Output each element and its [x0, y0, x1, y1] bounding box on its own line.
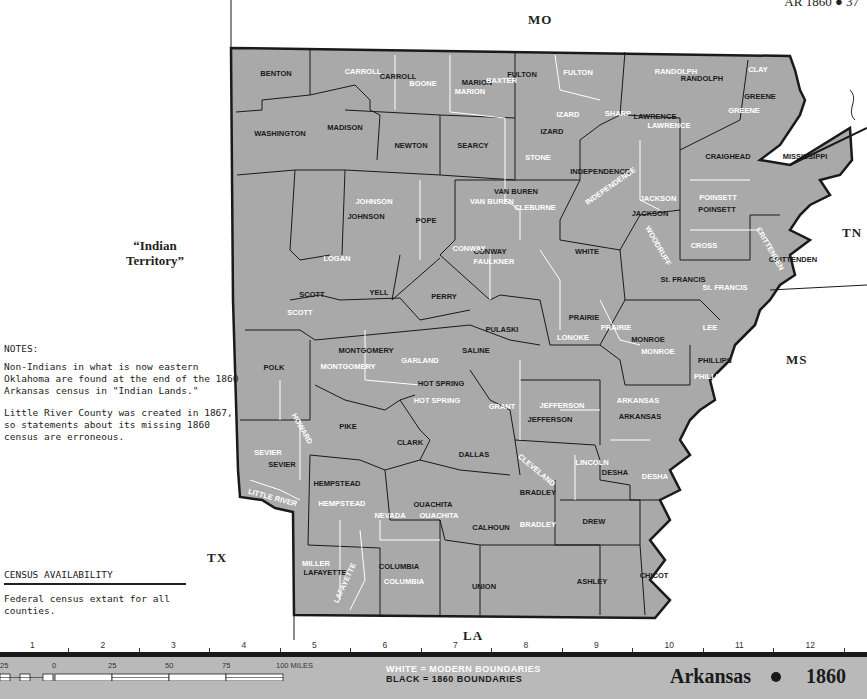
1860-county-label: PHILLIPS [698, 356, 732, 365]
modern-county-label: SCOTT [287, 308, 313, 317]
1860-county-label: BENTON [260, 69, 292, 78]
scale-label: 75 [222, 661, 230, 670]
ruler-tick-label: 6 [383, 640, 388, 650]
1860-county-label: JOHNSON [347, 212, 384, 221]
modern-county-label: MONROE [641, 347, 675, 356]
1860-county-label: SEARCY [457, 141, 488, 150]
modern-county-label: CONWAY [452, 244, 485, 253]
neighbor-state-ms: MS [786, 352, 808, 368]
arkansas-county-map: BENTONCARROLLMARIONFULTONRANDOLPHGREENEW… [0, 0, 867, 640]
ruler-tick-label: 11 [735, 640, 744, 650]
1860-county-label: YELL [369, 288, 389, 297]
ruler-tick-label: 1 [30, 640, 35, 650]
1860-county-label: ASHLEY [577, 577, 607, 586]
modern-county-label: OUACHITA [419, 511, 459, 520]
1860-county-label: DESHA [602, 468, 629, 477]
modern-county-label: BRADLEY [520, 520, 556, 529]
1860-county-label: POINSETT [698, 205, 736, 214]
map-year: 1860 [806, 665, 846, 688]
modern-county-label: LOGAN [323, 254, 350, 263]
1860-county-label: MONROE [631, 335, 665, 344]
1860-county-label: CHICOT [640, 571, 669, 580]
bullet-dot-icon [771, 672, 781, 682]
ruler-tick-label: 7 [453, 640, 458, 650]
ruler-tick-label: 4 [242, 640, 247, 650]
1860-county-label: MISSISSIPPI [783, 152, 828, 161]
1860-county-label: WASHINGTON [254, 129, 306, 138]
modern-county-label: SEVIER [254, 448, 282, 457]
census-availability-heading: CENSUS AVAILABILITY [4, 569, 186, 585]
scale-bar [0, 673, 290, 681]
1860-county-label: JEFFERSON [527, 415, 572, 424]
1860-county-label: LAWRENCE [634, 112, 677, 121]
1860-county-label: MADISON [327, 123, 362, 132]
modern-county-label: MARION [455, 87, 485, 96]
census-availability-text: Federal census extant for all counties. [4, 593, 186, 617]
modern-county-label: LINCOLN [575, 458, 608, 467]
notes-paragraph: Non-Indians in what is now eastern Oklah… [4, 361, 244, 397]
scale-label: 100 MILES [276, 661, 313, 670]
footer-bar: 250255075100 MILES WHITE = MODERN BOUNDA… [0, 657, 867, 699]
modern-county-label: CARROLL [345, 67, 382, 76]
notes-title: NOTES: [4, 343, 244, 355]
modern-county-label: STONE [525, 153, 551, 162]
modern-county-label: MILLER [302, 559, 330, 568]
1860-county-label: CALHOUN [472, 523, 510, 532]
ruler-tick-label: 10 [665, 640, 674, 650]
1860-county-label: IZARD [541, 127, 564, 136]
1860-county-label: POPE [416, 216, 437, 225]
1860-county-label: CRAIGHEAD [705, 152, 751, 161]
1860-county-label: HEMPSTEAD [313, 479, 361, 488]
ruler-tick-label: 3 [171, 640, 176, 650]
ruler-tick-label: 9 [594, 640, 599, 650]
modern-county-label: RANDOLPH [655, 67, 698, 76]
1860-county-label: MONTGOMERY [338, 346, 393, 355]
modern-county-label: LONOKE [557, 333, 589, 342]
neighbor-state-tx: TX [207, 550, 227, 566]
notes-paragraph: Little River County was created in 1867,… [4, 407, 244, 443]
1860-county-label: DREW [583, 517, 607, 526]
1860-county-label: VAN BUREN [494, 187, 538, 196]
1860-county-label: St. FRANCIS [661, 275, 706, 284]
1860-county-label: SCOTT [299, 290, 325, 299]
1860-county-label: PERRY [431, 292, 457, 301]
1860-county-label: LAFAYETTE [303, 568, 346, 577]
census-availability-panel: CENSUS AVAILABILITY Federal census extan… [4, 569, 186, 617]
ruler-tick-label: 8 [524, 640, 529, 650]
1860-county-label: GREENE [744, 92, 776, 101]
1860-county-label: HOT SPRING [418, 379, 465, 388]
indian-territory-label: “Indian Territory” [126, 238, 184, 268]
1860-county-label: JACKSON [632, 209, 669, 218]
1860-county-label: POLK [264, 363, 285, 372]
1860-county-label: UNION [472, 582, 496, 591]
modern-county-label: St. FRANCIS [703, 283, 748, 292]
1860-county-label: SALINE [462, 346, 490, 355]
scale-label: 50 [165, 661, 173, 670]
modern-county-label: COLUMBIA [384, 577, 425, 586]
ruler-tick-label: 12 [806, 640, 815, 650]
river-detail [850, 90, 855, 120]
modern-county-label: HEMPSTEAD [318, 499, 366, 508]
modern-county-label: LAWRENCE [648, 121, 691, 130]
modern-county-label: CROSS [691, 241, 718, 250]
modern-county-label: JACKSON [640, 194, 677, 203]
1860-county-label: PRAIRIE [569, 313, 599, 322]
modern-county-label: CLEBURNE [514, 203, 556, 212]
modern-county-label: IZARD [557, 110, 580, 119]
1860-county-label: PIKE [339, 422, 357, 431]
modern-county-label: FAULKNER [474, 257, 515, 266]
modern-county-label: NEVADA [374, 511, 406, 520]
indian-territory-line2: Territory” [126, 253, 184, 268]
modern-county-label: JOHNSON [355, 197, 392, 206]
1860-county-label: BRADLEY [520, 488, 556, 497]
scale-label: 25 [0, 661, 8, 670]
tn-ms-border [770, 285, 867, 290]
1860-county-label: PULASKI [486, 325, 519, 334]
modern-county-label: PHILLIPS [694, 372, 728, 381]
modern-county-label: MONTGOMERY [320, 362, 375, 371]
neighbor-state-tn: TN [842, 225, 862, 241]
notes-panel: NOTES: Non-Indians in what is now easter… [4, 343, 244, 453]
modern-county-label: DESHA [642, 472, 669, 481]
scale-label: 25 [108, 661, 116, 670]
modern-county-label: BAXTER [486, 76, 517, 85]
